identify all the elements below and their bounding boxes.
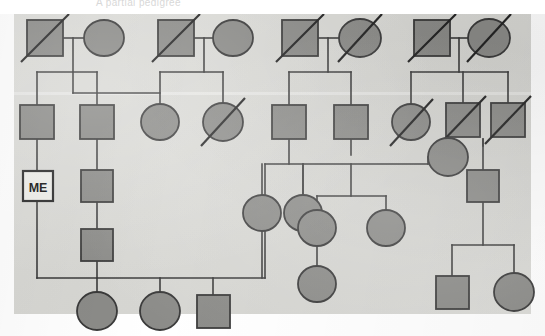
individual-I-7[interactable]: [408, 14, 456, 62]
individual-II-6[interactable]: [334, 105, 368, 139]
individual-II-9[interactable]: [485, 96, 531, 144]
top-white-margin: A partial pedigree: [0, 0, 545, 14]
individual-III-2[interactable]: [81, 170, 113, 202]
pedigree-canvas: ME: [0, 0, 545, 336]
male-symbol[interactable]: [272, 105, 306, 139]
female-symbol[interactable]: [243, 195, 281, 231]
female-symbol[interactable]: [84, 20, 124, 56]
female-symbol[interactable]: [298, 266, 336, 302]
individual-IV-1[interactable]: [77, 292, 117, 330]
individual-III-3[interactable]: [467, 170, 499, 202]
male-symbol[interactable]: [467, 170, 499, 202]
female-symbol[interactable]: [141, 104, 179, 140]
male-symbol[interactable]: [436, 276, 469, 309]
individual-IV-6[interactable]: [494, 273, 534, 311]
male-symbol[interactable]: [81, 229, 113, 261]
individual-I-5[interactable]: [276, 14, 324, 62]
individual-II-3[interactable]: [141, 104, 179, 140]
individual-I-1[interactable]: [21, 14, 69, 62]
individual-III-1-proband[interactable]: ME: [23, 171, 53, 201]
female-symbol[interactable]: [494, 273, 534, 311]
individual-I-2[interactable]: [84, 20, 124, 56]
individual-III-8[interactable]: [81, 229, 113, 261]
female-symbol[interactable]: [298, 210, 336, 246]
female-symbol[interactable]: [213, 20, 253, 56]
individual-II-5[interactable]: [272, 105, 306, 139]
individual-III-4[interactable]: [243, 195, 281, 231]
individual-IV-2[interactable]: [140, 292, 180, 330]
pedigree-figure: ME: [0, 0, 545, 336]
proband-label: ME: [29, 181, 48, 195]
male-symbol[interactable]: [334, 105, 368, 139]
male-symbol[interactable]: [197, 295, 230, 328]
individual-I-3[interactable]: [152, 14, 200, 62]
individual-II-2[interactable]: [80, 105, 114, 139]
female-symbol[interactable]: [140, 292, 180, 330]
individual-II-1[interactable]: [20, 105, 54, 139]
individual-III-7[interactable]: [367, 210, 405, 246]
faint-caption-text: A partial pedigree: [96, 0, 181, 8]
individual-III-6[interactable]: [298, 210, 336, 246]
female-symbol[interactable]: [77, 292, 117, 330]
individual-I-4[interactable]: [213, 20, 253, 56]
individual-II-8[interactable]: [440, 96, 486, 144]
individual-IV-5[interactable]: [436, 276, 469, 309]
individual-IV-4[interactable]: [298, 266, 336, 302]
female-symbol[interactable]: [367, 210, 405, 246]
male-symbol[interactable]: [80, 105, 114, 139]
female-symbol[interactable]: [428, 138, 468, 176]
individual-II-10[interactable]: [428, 138, 468, 176]
individual-IV-3[interactable]: [197, 295, 230, 328]
male-symbol[interactable]: [20, 105, 54, 139]
male-symbol[interactable]: [81, 170, 113, 202]
